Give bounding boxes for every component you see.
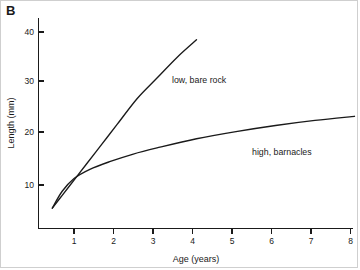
- y-axis-tick-labels: 40 30 20 10: [25, 27, 35, 190]
- curves-group: [52, 40, 354, 208]
- curve-low-bare-rock: [52, 40, 196, 208]
- x-tick-label-1: 1: [72, 236, 77, 246]
- series-annotation-high-barnacles: high, barnacles: [252, 147, 312, 157]
- y-tick-label-40: 40: [25, 27, 35, 37]
- y-tick-label-30: 30: [25, 76, 35, 86]
- y-tick-label-10: 10: [25, 180, 35, 190]
- y-tick-label-20: 20: [25, 127, 35, 137]
- x-axis-ticks: [74, 229, 351, 235]
- x-tick-label-6: 6: [269, 236, 274, 246]
- x-axis-tick-labels: 1 2 3 4 5 6 7 8: [72, 236, 354, 246]
- axes-group: [39, 18, 354, 229]
- growth-curve-chart: 40 30 20 10 1 2 3 4 5 6 7 8: [0, 0, 360, 270]
- x-tick-label-2: 2: [111, 236, 116, 246]
- x-tick-label-4: 4: [190, 236, 195, 246]
- x-tick-label-8: 8: [348, 236, 353, 246]
- curve-high-barnacles: [52, 116, 354, 208]
- x-tick-label-3: 3: [151, 236, 156, 246]
- figure-panel: B 40 30 20 10 1: [0, 0, 360, 270]
- y-axis-ticks: [39, 32, 45, 185]
- x-tick-label-7: 7: [309, 236, 314, 246]
- x-axis-title: Age (years): [173, 254, 220, 264]
- y-axis-title: Length (mm): [6, 97, 16, 148]
- series-annotation-low-bare-rock: low, bare rock: [172, 75, 227, 85]
- x-tick-label-5: 5: [230, 236, 235, 246]
